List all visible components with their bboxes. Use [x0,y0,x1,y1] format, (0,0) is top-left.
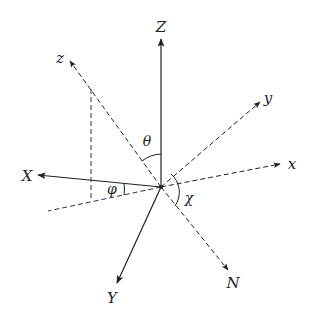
angle-arcs [124,154,179,206]
axis-X [38,175,161,187]
axis-labels: Z X Y z y x N [21,18,297,307]
label-y: y [263,89,273,107]
coordinate-frame-diagram: Z X Y z y x N θ φ χ [0,0,315,328]
projection-lines [48,89,161,211]
label-chi: χ [184,190,195,206]
axis-z [70,61,161,187]
label-phi: φ [107,181,117,197]
axis-x [161,164,280,187]
xy-plane-projection-line [48,187,161,211]
label-x: x [288,155,297,173]
axis-y [161,102,260,187]
label-N: N [225,274,240,292]
label-Z: Z [155,18,167,36]
label-X: X [21,167,34,185]
dashed-axes [70,61,280,270]
label-theta: θ [143,133,152,149]
label-Y: Y [107,289,119,307]
theta-arc [142,154,161,161]
axis-Y [117,187,161,283]
axis-N [161,187,228,270]
label-z: z [55,49,64,67]
origin-point [159,185,163,189]
